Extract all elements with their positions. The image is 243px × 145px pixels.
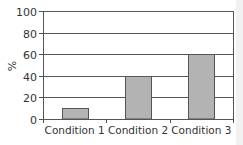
bar-1 [63,109,89,120]
y-axis-label: % [6,61,19,71]
y-tick-label: 80 [23,28,37,41]
x-tick-label: Condition 2 [108,124,168,136]
x-tick-label: Condition 3 [171,124,231,136]
bar-2 [126,77,152,120]
x-tick-label: Condition 1 [45,124,105,136]
y-tick-label: 40 [23,71,37,84]
bars [63,55,215,120]
bar-3 [189,55,215,120]
y-tick-label: 60 [23,49,37,62]
bar-chart: 020406080100 Condition 1Condition 2Condi… [0,0,243,145]
x-axis-labels: Condition 1Condition 2Condition 3 [45,124,232,136]
y-axis-ticks: 020406080100 [16,6,43,127]
y-tick-label: 0 [30,114,37,127]
y-tick-label: 100 [16,6,37,19]
y-tick-label: 20 [23,92,37,105]
